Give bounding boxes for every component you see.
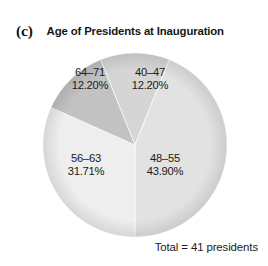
slice-percent-48-55: 43.90% <box>136 165 194 178</box>
slice-range-40-47: 40–47 <box>122 66 178 79</box>
slice-range-64-71: 64–71 <box>62 66 118 79</box>
slice-percent-56-63: 31.71% <box>57 165 115 178</box>
slice-label-40-47: 40–47 12.20% <box>122 66 178 92</box>
figure-header: (c) Age of Presidents at Inauguration <box>0 18 268 44</box>
panel-letter: (c) <box>16 22 33 40</box>
slice-label-48-55: 48–55 43.90% <box>136 152 194 178</box>
slice-percent-40-47: 12.20% <box>122 79 178 92</box>
slice-label-56-63: 56–63 31.71% <box>57 152 115 178</box>
slice-label-64-71: 64–71 12.20% <box>62 66 118 92</box>
slice-range-56-63: 56–63 <box>57 152 115 165</box>
total-note: Total = 41 presidents <box>0 241 258 253</box>
pie-chart-figure: (c) Age of Presidents at Inauguration 64… <box>0 0 268 266</box>
page-title: Age of Presidents at Inauguration <box>47 25 224 37</box>
slice-percent-64-71: 12.20% <box>62 79 118 92</box>
slice-range-48-55: 48–55 <box>136 152 194 165</box>
